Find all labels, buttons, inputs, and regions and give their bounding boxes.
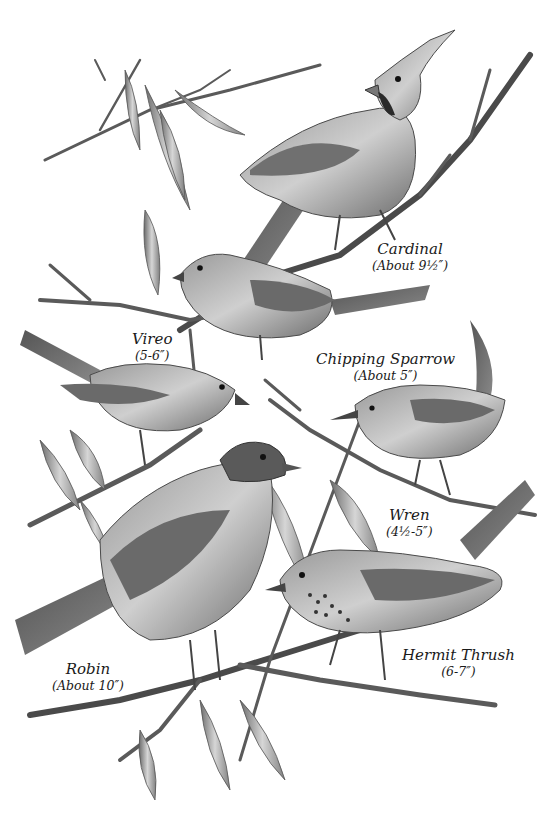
- bird-size: (6-7″): [402, 664, 515, 679]
- label-cardinal: Cardinal (About 9½″): [372, 240, 448, 273]
- bird-name: Hermit Thrush: [402, 646, 515, 664]
- label-chipping-sparrow: Chipping Sparrow (About 5″): [316, 350, 455, 383]
- label-wren: Wren (4½-5″): [386, 506, 433, 539]
- bird-size: (About 9½″): [372, 258, 448, 273]
- bird-name: Wren: [386, 506, 433, 524]
- label-robin: Robin (About 10″): [52, 660, 124, 693]
- bird-name: Chipping Sparrow: [316, 350, 455, 368]
- bird-size: (About 10″): [52, 678, 124, 693]
- wren-drawing: [330, 320, 505, 495]
- bird-size: (About 5″): [316, 368, 455, 383]
- bird-illustration: [0, 0, 560, 820]
- bird-size: (5-6″): [132, 348, 172, 363]
- label-vireo: Vireo (5-6″): [132, 330, 172, 363]
- bird-name: Robin: [52, 660, 124, 678]
- label-hermit-thrush: Hermit Thrush (6-7″): [402, 646, 515, 679]
- bird-name: Cardinal: [372, 240, 448, 258]
- bird-name: Vireo: [132, 330, 172, 348]
- bird-size: (4½-5″): [386, 524, 433, 539]
